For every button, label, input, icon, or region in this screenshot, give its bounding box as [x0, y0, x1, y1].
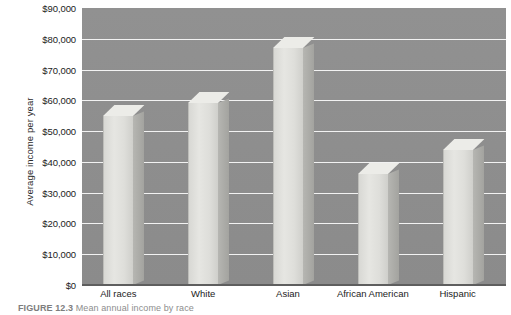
bar: [103, 116, 133, 285]
y-axis-tick-label: $20,000: [42, 218, 76, 229]
x-axis-tick-label: African American: [337, 288, 409, 299]
y-axis-tick-label: $70,000: [42, 64, 76, 75]
y-axis-tick-label: $40,000: [42, 156, 76, 167]
plot-area: [82, 8, 506, 285]
y-axis-tick-label: $80,000: [42, 33, 76, 44]
bar-front-face: [358, 174, 388, 285]
y-axis-tick-label: $0: [66, 280, 76, 291]
bar-front-face: [273, 48, 303, 285]
figure-container: Average income per year $0$10,000$20,000…: [0, 0, 511, 315]
figure-caption-label: FIGURE 12.3: [18, 303, 73, 313]
bar: [443, 150, 473, 285]
bar-front-face: [103, 116, 133, 285]
bar-side-face: [218, 99, 229, 285]
y-axis-tick-label: $50,000: [42, 126, 76, 137]
y-axis-tick-labels: $0$10,000$20,000$30,000$40,000$50,000$60…: [0, 0, 80, 295]
bar-front-face: [443, 150, 473, 285]
bar-side-face: [303, 44, 314, 285]
figure-caption-text: Mean annual income by race: [76, 303, 194, 313]
bar: [358, 174, 388, 285]
x-axis-tick-label: White: [191, 288, 215, 299]
x-axis-tick-labels: All racesWhiteAsianAfrican AmericanHispa…: [82, 288, 506, 302]
bar-side-face: [388, 170, 399, 285]
bar-front-face: [188, 103, 218, 285]
x-axis-tick-label: Asian: [276, 288, 300, 299]
y-axis-tick-label: $30,000: [42, 187, 76, 198]
bar-side-face: [133, 111, 144, 285]
y-axis-tick-label: $90,000: [42, 3, 76, 14]
y-axis-tick-label: $10,000: [42, 249, 76, 260]
y-axis-tick-label: $60,000: [42, 95, 76, 106]
bar-side-face: [473, 145, 484, 285]
x-axis-tick-label: All races: [100, 288, 136, 299]
x-axis-tick-label: Hispanic: [439, 288, 475, 299]
bar: [273, 48, 303, 285]
figure-caption: FIGURE 12.3 Mean annual income by race: [18, 303, 194, 313]
x-axis-line: [82, 284, 506, 286]
bar: [188, 103, 218, 285]
